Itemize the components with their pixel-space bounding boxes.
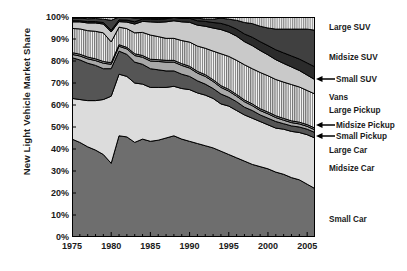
x-axis-tick-labels: 1975198019851990199520002005: [72, 241, 315, 255]
legend-label-small-suv: Small SUV: [336, 75, 377, 84]
legend-leader-arrow: [316, 133, 335, 140]
y-axis-tick-label: 80%: [51, 56, 69, 66]
x-axis-tick-label: 2000: [258, 241, 278, 251]
chart-legend: Large SUVMidsize SUVSmall SUVVansLarge P…: [316, 0, 407, 271]
plot-area: [72, 17, 315, 237]
x-axis-tick-label: 1995: [219, 241, 239, 251]
legend-label-vans: Vans: [329, 93, 348, 102]
legend-label-small-pickup: Small Pickup: [336, 132, 387, 141]
legend-label-small-car: Small Car: [329, 215, 367, 224]
legend-label-midsize-pickup: Midsize Pickup: [336, 121, 395, 130]
chart-figure: New Light Vehicle Market Share 0%10%20%3…: [0, 0, 407, 271]
x-axis-tick-label: 2005: [297, 241, 317, 251]
legend-label-large-suv: Large SUV: [329, 23, 370, 32]
legend-label-large-pickup: Large Pickup: [329, 106, 380, 115]
x-axis-tick-label: 1990: [180, 241, 200, 251]
x-axis-tick-label: 1980: [101, 241, 121, 251]
y-axis-tick-label: 50%: [51, 122, 69, 132]
x-axis-tick-label: 1975: [62, 241, 82, 251]
y-axis-tick-label: 60%: [51, 100, 69, 110]
y-axis-tick-label: 10%: [51, 210, 69, 220]
y-axis-tick-label: 40%: [51, 144, 69, 154]
x-axis-tick-label: 1985: [140, 241, 160, 251]
legend-leader-arrow: [316, 76, 335, 83]
area-bands: [72, 17, 315, 237]
y-axis-tick-label: 90%: [51, 34, 69, 44]
stacked-area-plot: [72, 17, 315, 237]
legend-label-midsize-suv: Midsize SUV: [329, 53, 378, 62]
legend-label-large-car: Large Car: [329, 146, 367, 155]
y-axis-tick-label: 20%: [51, 188, 69, 198]
y-axis-tick-label: 100%: [46, 12, 69, 22]
y-axis-tick-labels: 0%10%20%30%40%50%60%70%80%90%100%: [28, 17, 69, 237]
legend-label-midsize-car: Midsize Car: [329, 164, 375, 173]
legend-leader-arrow: [316, 122, 335, 129]
y-axis-tick-label: 30%: [51, 166, 69, 176]
y-axis-tick-label: 70%: [51, 78, 69, 88]
